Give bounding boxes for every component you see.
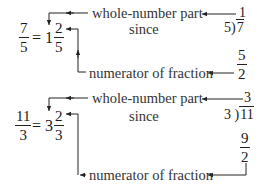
division-bracket-icon: )	[231, 20, 236, 35]
mixed-denominator-1: 5	[54, 38, 64, 55]
remainder-1: 2	[237, 65, 247, 82]
improper-fraction-2: 11 3	[15, 109, 31, 143]
quotient-2: 3	[244, 91, 251, 105]
product-remainder-2: 9 2	[240, 131, 250, 165]
improper-denominator-2: 3	[18, 126, 28, 143]
whole-number-part-label-2: whole-number part	[92, 91, 203, 106]
divisor-1: 5	[224, 20, 231, 35]
numerator-of-fraction-label-1: numerator of fraction	[89, 66, 213, 81]
divisor-2: 3	[224, 107, 231, 122]
improper-denominator-1: 5	[19, 38, 29, 55]
mixed-numerator-2: 2	[54, 109, 64, 125]
mixed-numerator-1: 2	[54, 21, 64, 37]
improper-fraction-1: 7 5	[19, 21, 29, 55]
dividend-1: 7	[236, 19, 244, 35]
long-division-2: 3 )11	[224, 108, 254, 122]
product-remainder-1: 5 2	[237, 48, 247, 82]
mixed-whole-1: 1	[45, 30, 53, 46]
division-bracket-icon: )	[231, 107, 239, 122]
remainder-2: 2	[240, 148, 250, 165]
numerator-connector-2	[66, 114, 78, 172]
long-division-1: 5)7	[224, 21, 244, 35]
product-1: 5	[237, 48, 247, 64]
numerator-connector-1	[66, 29, 86, 72]
improper-numerator-2: 11	[15, 109, 31, 125]
mixed-whole-2: 3	[45, 118, 53, 134]
product-2: 9	[240, 131, 250, 147]
since-label-1: since	[129, 22, 159, 37]
equals-sign-2: =	[32, 118, 41, 134]
dividend-2: 11	[239, 106, 253, 122]
improper-numerator-1: 7	[19, 21, 29, 37]
mixed-denominator-2: 3	[54, 126, 64, 143]
quotient-1: 1	[239, 6, 246, 20]
numerator-of-fraction-label-2: numerator of fraction	[89, 168, 213, 183]
whole-number-part-label-1: whole-number part	[92, 6, 203, 21]
mixed-fraction-2: 2 3	[54, 109, 64, 143]
equals-sign-1: =	[32, 30, 41, 46]
mixed-fraction-1: 2 5	[54, 21, 64, 55]
since-label-2: since	[129, 109, 159, 124]
